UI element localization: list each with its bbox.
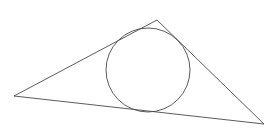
diagram-canvas <box>0 0 278 131</box>
geometry-figure <box>0 0 278 131</box>
